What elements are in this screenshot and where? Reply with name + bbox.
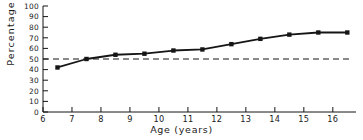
data-point-marker [316,30,320,34]
y-tick-label: 20 [29,87,39,96]
x-tick-label: 12 [211,114,222,124]
data-point-marker [258,37,262,41]
data-point-marker [200,47,204,51]
x-tick-label: 7 [69,114,75,124]
y-tick-label: 40 [29,65,39,74]
y-tick-label: 50 [29,55,39,64]
data-series-group [55,30,349,69]
y-tick-label: 30 [29,76,39,85]
data-point-marker [142,52,146,56]
y-tick-label: 90 [29,12,39,21]
y-axis-title: Percentage [5,0,16,70]
x-tick-label: 9 [127,114,133,124]
data-point-marker [113,53,117,57]
x-tick-label: 8 [98,114,104,124]
y-tick-label: 100 [24,2,39,11]
x-tick-label: 10 [153,114,164,124]
data-point-marker [287,32,291,36]
y-tick-label: 60 [29,44,39,53]
x-tick-label: 11 [182,114,193,124]
chart-container: 0102030405060708090100 67891011121314151… [0,0,363,140]
x-tick-label: 14 [269,114,280,124]
x-tick-label: 16 [327,114,338,124]
x-tick-label: 6 [40,114,46,124]
x-ticks-group: 678910111213141516 [40,107,338,124]
y-tick-label: 70 [29,34,39,43]
y-tick-label: 80 [29,23,39,32]
x-tick-label: 15 [298,114,309,124]
data-point-marker [345,30,349,34]
data-point-marker [171,48,175,52]
chart-plot-svg: 0102030405060708090100 67891011121314151… [0,0,363,140]
x-tick-label: 13 [240,114,251,124]
y-tick-label: 10 [29,97,39,106]
data-point-marker [229,42,233,46]
data-point-marker [55,65,59,69]
y-tick-label: 0 [34,108,39,117]
x-axis-title: Age (years) [0,124,363,135]
data-point-marker [84,57,88,61]
